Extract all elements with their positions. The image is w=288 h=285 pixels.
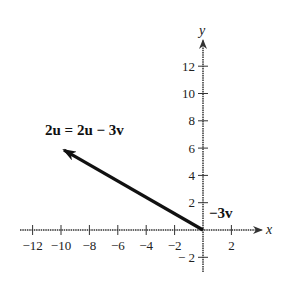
x-tick-label: −4 bbox=[139, 238, 153, 253]
x-tick-label: −8 bbox=[82, 238, 96, 253]
y-tick-label: − 2 bbox=[178, 250, 195, 265]
y-tick-label: 8 bbox=[189, 113, 196, 128]
x-tick-label: 2 bbox=[228, 238, 235, 253]
y-axis-label: y bbox=[197, 23, 206, 38]
vector-diagram: x y −12−10−8−6−4−22 12108642− 2 2u = 2u … bbox=[0, 0, 288, 285]
result-vector-arrow bbox=[64, 150, 203, 230]
y-tick-label: 12 bbox=[182, 59, 195, 74]
x-tick-label: −10 bbox=[51, 238, 71, 253]
x-axis-label: x bbox=[265, 222, 273, 237]
y-tick-label: 4 bbox=[189, 168, 196, 183]
result-vector-label: 2u = 2u − 3v bbox=[45, 122, 124, 138]
y-tick-label: 10 bbox=[182, 86, 195, 101]
y-tick-label: 6 bbox=[189, 141, 196, 156]
y-tick-label: 2 bbox=[189, 195, 196, 210]
x-tick-label: −12 bbox=[22, 238, 42, 253]
minus-3v-label: −3v bbox=[209, 205, 233, 221]
x-tick-label: −6 bbox=[111, 238, 125, 253]
